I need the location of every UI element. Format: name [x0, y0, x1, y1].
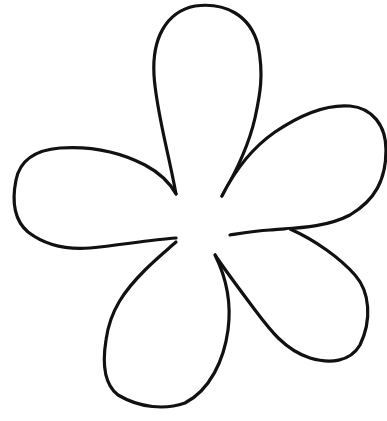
flower-drawing [0, 0, 387, 421]
lower-right-petal [215, 229, 368, 361]
left-petal [14, 148, 176, 249]
bottom-petal [104, 242, 229, 407]
flower-outline-icon [0, 0, 387, 421]
